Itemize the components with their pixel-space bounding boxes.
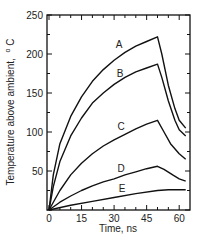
curve-label-e: E xyxy=(119,183,126,194)
y-axis-title: Temperature above ambient, o C xyxy=(1,39,16,186)
x-axis-title: Time, ns xyxy=(99,223,137,234)
y-tick-label: 150 xyxy=(26,88,43,99)
curve-b xyxy=(49,64,186,210)
temperature-chart: 50100150200250 015304560 ABCDE Time, ns … xyxy=(0,0,200,251)
svg-text:Temperature above ambient,: Temperature above ambient, o C xyxy=(1,39,16,186)
x-tick-label: 45 xyxy=(141,213,153,224)
x-tick-label: 0 xyxy=(46,213,52,224)
curve-labels: ABCDE xyxy=(116,39,126,194)
x-tick-label: 15 xyxy=(76,213,88,224)
y-tick-label: 250 xyxy=(26,10,43,21)
curve-e xyxy=(49,190,186,210)
y-tick-label: 100 xyxy=(26,127,43,138)
y-axis-title-main: Temperature above ambient, xyxy=(5,58,16,185)
degree-symbol: o xyxy=(4,48,11,52)
x-tick-label: 60 xyxy=(174,213,186,224)
curve-label-b: B xyxy=(117,68,124,79)
curve-label-a: A xyxy=(116,39,123,50)
curve-label-c: C xyxy=(117,121,124,132)
y-tick-label: 200 xyxy=(26,49,43,60)
curve-label-d: D xyxy=(117,163,124,174)
y-axis-title-unit: C xyxy=(5,39,16,46)
y-tick-label: 50 xyxy=(32,166,44,177)
